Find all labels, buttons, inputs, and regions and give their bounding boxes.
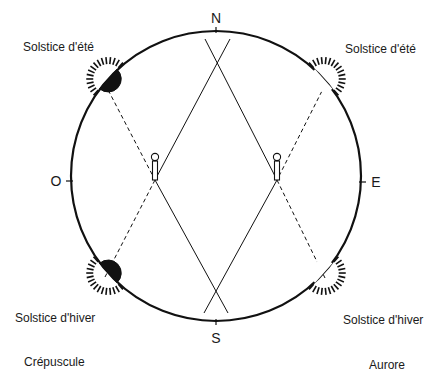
sun-winter-west-icon <box>86 257 123 295</box>
sun-ray <box>90 66 96 70</box>
sun-ray <box>337 85 343 88</box>
sun-ray <box>317 287 319 294</box>
sun-ray <box>94 284 99 289</box>
sun-ray <box>101 58 103 65</box>
sun-ray <box>90 282 96 286</box>
sun-ray <box>87 276 94 277</box>
dashed-line-summer-west <box>105 84 155 180</box>
sun-disc <box>100 69 122 92</box>
sun-ray <box>110 57 111 64</box>
sun-ray <box>325 288 326 295</box>
label-winter-west: Solstice d'hiver <box>15 311 95 325</box>
sun-ray <box>88 85 94 88</box>
sun-ray <box>331 286 335 292</box>
caption-dusk: Crépuscule <box>24 355 85 369</box>
label-summer-east: Solstice d'été <box>345 42 416 56</box>
sun-disc <box>100 260 122 283</box>
sun-ray <box>334 63 339 68</box>
sun-ray <box>87 82 94 83</box>
sun-ray <box>338 82 345 83</box>
sun-ray <box>313 286 317 292</box>
sun-ray <box>331 60 335 66</box>
sun-ray <box>337 264 343 267</box>
sightline-east-south <box>204 180 277 313</box>
sun-ray <box>101 287 103 294</box>
sun-ray <box>317 58 319 65</box>
dashed-line-summer-east <box>277 85 325 180</box>
sun-ray <box>336 88 342 92</box>
sun-ray <box>90 260 96 264</box>
sun-ray <box>337 70 343 73</box>
sun-ray <box>325 57 326 64</box>
sun-ray <box>336 260 342 264</box>
label-winter-east: Solstice d'hiver <box>343 313 423 327</box>
sightline-east-north <box>205 39 277 180</box>
sun-ray <box>336 66 342 70</box>
sun-ray <box>338 74 345 75</box>
sun-ray <box>338 268 345 269</box>
sun-ray <box>321 57 322 64</box>
east-label: E <box>371 174 380 190</box>
west-label: O <box>51 173 62 189</box>
sun-ray <box>113 58 115 65</box>
sightline-west-south <box>155 180 228 313</box>
sun-ray <box>328 58 330 65</box>
sun-disc <box>311 69 333 92</box>
east-marker-icon <box>273 153 280 180</box>
sun-ray <box>110 288 111 295</box>
north-label: N <box>211 10 221 26</box>
sun-ray <box>88 279 94 282</box>
sun-ray <box>97 60 101 66</box>
sun-ray <box>313 60 317 66</box>
sun-ray <box>116 286 120 292</box>
sightline-west-north <box>155 39 230 180</box>
sun-ray <box>88 264 94 267</box>
sun-ray <box>338 276 345 277</box>
sun-ray <box>328 287 330 294</box>
label-summer-west: Solstice d'été <box>23 40 94 54</box>
sun-ray <box>90 88 96 92</box>
sun-ray <box>88 70 94 73</box>
sun-disc <box>311 260 333 283</box>
west-marker-icon <box>151 153 158 180</box>
sun-ray <box>321 288 322 295</box>
solstice-diagram: N S O E Solstice d'été Solstice d'été So… <box>0 0 436 383</box>
sun-summer-west-icon <box>86 57 123 95</box>
sun-ray <box>87 268 94 269</box>
sun-ray <box>106 57 107 64</box>
sun-ray <box>106 288 107 295</box>
sun-summer-east-icon <box>309 57 346 95</box>
sun-ray <box>336 282 342 286</box>
sun-ray <box>113 287 115 294</box>
south-label: S <box>211 330 220 346</box>
sun-ray <box>337 279 343 282</box>
sun-ray <box>87 74 94 75</box>
sun-winter-east-icon <box>309 257 346 295</box>
sun-ray <box>334 284 339 289</box>
sun-ray <box>116 60 120 66</box>
caption-dawn: Aurore <box>369 358 405 372</box>
sun-ray <box>94 63 99 68</box>
sun-ray <box>97 286 101 292</box>
